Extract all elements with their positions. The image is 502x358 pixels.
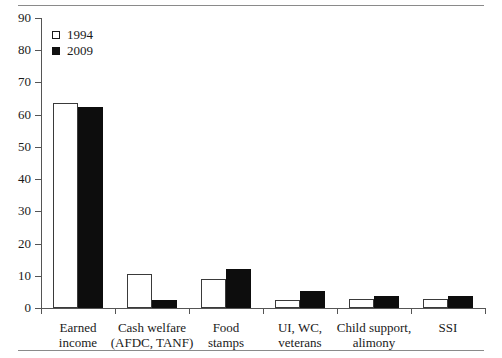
x-axis-tick <box>115 308 116 314</box>
x-axis-tick <box>337 308 338 314</box>
bar-2009-1 <box>78 107 103 308</box>
y-axis-tick-label: 10 <box>5 269 31 282</box>
y-axis-tick-label: 80 <box>5 43 31 56</box>
y-axis-tick <box>35 211 41 212</box>
x-axis-tick <box>189 308 190 314</box>
bar-2009-6 <box>448 296 473 308</box>
bar-chart-figure: 1994 2009 0102030405060708090 Earned inc… <box>0 0 502 358</box>
y-axis-tick <box>35 276 41 277</box>
bottom-divider-rule <box>18 350 484 351</box>
y-axis-tick-label: 90 <box>5 11 31 24</box>
y-axis-tick <box>35 147 41 148</box>
y-axis-tick-label: 0 <box>5 301 31 314</box>
y-axis-tick <box>35 50 41 51</box>
x-axis-tick <box>41 308 42 314</box>
y-axis-tick-label: 20 <box>5 237 31 250</box>
y-axis-tick-label: 60 <box>5 108 31 121</box>
bar-2009-4 <box>300 291 325 308</box>
y-axis-tick-label: 50 <box>5 140 31 153</box>
y-axis-tick <box>35 18 41 19</box>
bar-2009-2 <box>152 300 177 308</box>
bar-2009-3 <box>226 269 251 308</box>
y-axis-tick <box>35 179 41 180</box>
bar-1994-5 <box>349 299 374 308</box>
y-axis-tick-label: 40 <box>5 172 31 185</box>
y-axis-line <box>41 18 42 309</box>
y-axis-tick-label: 70 <box>5 75 31 88</box>
bar-2009-5 <box>374 296 399 308</box>
y-axis-tick <box>35 244 41 245</box>
top-divider-rule <box>18 5 484 6</box>
bar-1994-3 <box>201 279 226 308</box>
plot-area: 0102030405060708090 Earned incomeCash we… <box>41 18 485 308</box>
x-axis-category-label: SSI <box>403 320 493 335</box>
y-axis-tick <box>35 115 41 116</box>
x-axis-tick <box>263 308 264 314</box>
y-axis-tick-label: 30 <box>5 204 31 217</box>
y-axis-tick <box>35 82 41 83</box>
bar-1994-4 <box>275 300 300 308</box>
bar-1994-2 <box>127 274 152 308</box>
bar-1994-1 <box>53 103 78 308</box>
bar-1994-6 <box>423 299 448 308</box>
x-axis-tick <box>485 308 486 314</box>
x-axis-tick <box>411 308 412 314</box>
